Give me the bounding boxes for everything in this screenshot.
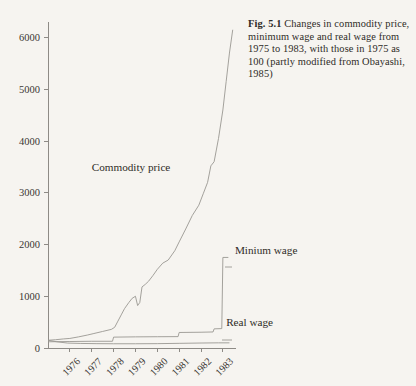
x-tick-label: 1980 [148, 356, 170, 378]
series-annotations: Commodity priceMinium wageReal wage [92, 161, 298, 328]
annotation-leaders [222, 267, 232, 340]
data-series [48, 30, 233, 344]
annotation-minium-wage: Minium wage [235, 244, 297, 256]
series-line-minium-wage [48, 257, 228, 341]
x-tick-label: 1982 [191, 356, 213, 378]
x-tick-label: 1983 [213, 356, 235, 378]
y-tick-label: 2000 [19, 239, 40, 250]
figure-container: Fig. 5.1 Changes in commodity price, min… [0, 0, 416, 386]
line-chart: 0100020003000400050006000 19761977197819… [0, 0, 416, 386]
y-tick-label: 0 [35, 343, 40, 354]
x-tick-label: 1978 [104, 356, 126, 378]
x-tick-label: 1977 [82, 356, 104, 378]
y-tick-label: 4000 [19, 136, 40, 147]
x-tick-label: 1979 [126, 356, 148, 378]
y-tick-labels: 0100020003000400050006000 [19, 32, 48, 353]
x-tick-label: 1976 [60, 356, 82, 378]
y-tick-label: 5000 [19, 84, 40, 95]
annotation-real-wage: Real wage [226, 316, 273, 328]
x-tick-label: 1981 [169, 356, 191, 378]
series-line-commodity-price [48, 30, 233, 340]
y-tick-label: 3000 [19, 187, 40, 198]
y-tick-label: 6000 [19, 32, 40, 43]
series-line-real-wage [48, 340, 229, 344]
y-tick-label: 1000 [19, 291, 40, 302]
x-tick-labels: 19761977197819791980198119821983 [60, 348, 235, 378]
annotation-commodity-price: Commodity price [92, 161, 171, 173]
